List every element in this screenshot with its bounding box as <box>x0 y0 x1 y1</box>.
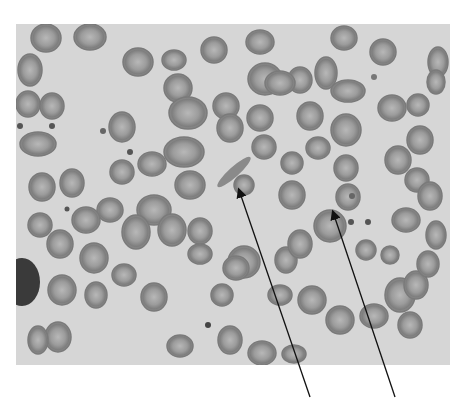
annotation-arrows <box>0 0 465 409</box>
arrow-target-cell-icon <box>333 212 395 397</box>
micrograph-figure <box>0 0 465 409</box>
arrow-elongated-cell-icon <box>239 190 310 397</box>
